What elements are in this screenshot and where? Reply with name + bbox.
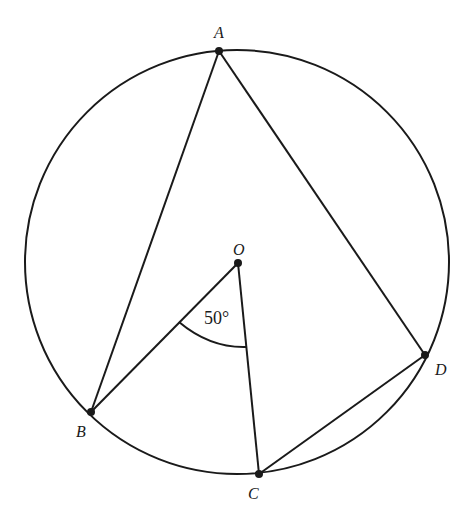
segment-OB	[91, 263, 238, 412]
segment-AB	[91, 51, 219, 412]
point-A	[215, 47, 223, 55]
label-D: D	[434, 361, 447, 378]
angle-label: 50°	[204, 308, 229, 328]
point-O	[234, 259, 242, 267]
label-B: B	[76, 423, 86, 440]
point-D	[421, 351, 429, 359]
label-C: C	[248, 485, 259, 502]
point-B	[87, 408, 95, 416]
segment-OC	[238, 263, 259, 474]
point-C	[255, 470, 263, 478]
geometry-diagram: A B C D O 50°	[0, 0, 471, 524]
label-O: O	[233, 241, 245, 258]
segment-CD	[259, 355, 425, 474]
segment-AD	[219, 51, 425, 355]
label-A: A	[213, 24, 224, 41]
